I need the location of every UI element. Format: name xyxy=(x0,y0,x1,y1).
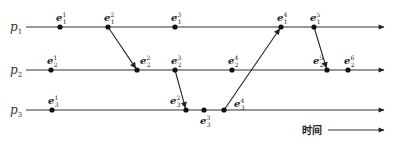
event-label: e13 xyxy=(48,94,59,108)
event-dot xyxy=(278,24,283,29)
process-label-p3: p3 xyxy=(10,103,22,119)
event-label: e22 xyxy=(140,54,151,68)
event-label: e21 xyxy=(104,11,115,25)
event-dot xyxy=(324,67,329,72)
event-dot xyxy=(183,107,188,112)
event-label: e43 xyxy=(234,97,245,111)
svg-text:p2: p2 xyxy=(10,63,22,79)
event-label: e51 xyxy=(310,11,321,25)
event-label: e62 xyxy=(344,54,355,68)
event-dot xyxy=(48,67,53,72)
space-time-diagram: p1 p2 p3 e11e21e31e41e51e12e22e32e42e52e… xyxy=(0,0,396,144)
event-label: e23 xyxy=(170,94,181,108)
event-label: e33 xyxy=(200,114,211,128)
event-label: e42 xyxy=(228,54,239,68)
event-dot xyxy=(221,107,226,112)
event-dot xyxy=(172,24,177,29)
message-arrow-e1-2-to-e2-2 xyxy=(108,27,136,68)
event-dot xyxy=(57,24,62,29)
event-dot xyxy=(345,67,350,72)
event-dot xyxy=(172,67,177,72)
event-dot xyxy=(105,24,110,29)
svg-text:p3: p3 xyxy=(10,103,22,119)
event-dot xyxy=(229,67,234,72)
event-label: e41 xyxy=(277,11,288,25)
event-label: e32 xyxy=(171,54,182,68)
event-dot xyxy=(311,24,316,29)
event-dot xyxy=(201,107,206,112)
process-label-p2: p2 xyxy=(10,63,22,79)
event-dot xyxy=(134,67,139,72)
time-axis-label: 时间 xyxy=(302,124,322,136)
svg-text:p1: p1 xyxy=(10,20,22,36)
event-label: e52 xyxy=(313,54,324,68)
event-label: e31 xyxy=(171,11,182,25)
event-label: e12 xyxy=(47,54,58,68)
process-label-p1: p1 xyxy=(10,20,22,36)
event-label: e11 xyxy=(56,11,67,25)
event-dot xyxy=(49,107,54,112)
